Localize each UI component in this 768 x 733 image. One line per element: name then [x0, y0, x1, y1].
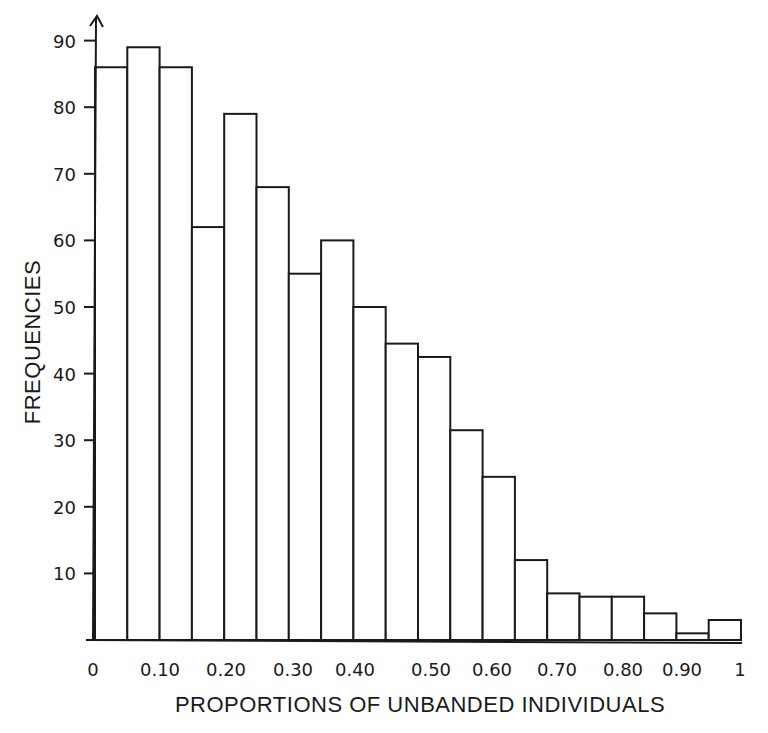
histogram-bar: [450, 430, 482, 640]
histogram-bar: [95, 67, 127, 640]
x-tick-label: 0.40: [335, 659, 375, 680]
x-tick-label: 0.60: [472, 659, 512, 680]
histogram-bar: [580, 597, 612, 640]
histogram-bar: [515, 560, 547, 640]
histogram-bar: [224, 114, 256, 640]
x-axis-title: PROPORTIONS OF UNBANDED INDIVIDUALS: [175, 692, 665, 717]
histogram-bar: [483, 477, 515, 640]
histogram-bar: [192, 227, 224, 640]
x-tick-label: 1: [734, 659, 745, 680]
y-tick-label: 30: [53, 430, 76, 451]
y-tick-label: 20: [53, 497, 76, 518]
histogram-bar: [127, 47, 159, 640]
y-tick-label: 50: [53, 297, 76, 318]
histogram-bar: [676, 633, 708, 640]
histogram-bar: [547, 593, 579, 640]
y-tick-label: 70: [53, 164, 76, 185]
histogram-bar: [289, 274, 321, 640]
histogram-bar: [709, 620, 741, 640]
histogram-bar: [644, 613, 676, 640]
y-tick-label: 10: [53, 563, 76, 584]
y-axis-ticks: 102030405060708090: [53, 31, 96, 585]
x-axis-ticks: 00.100.200.300.400.500.600.700.800.901: [87, 659, 745, 680]
x-tick-label: 0.20: [206, 659, 246, 680]
histogram-bar: [612, 597, 644, 640]
histogram-bar: [353, 307, 385, 640]
histogram-bar: [257, 187, 289, 640]
x-tick-label: 0.80: [603, 659, 643, 680]
y-tick-label: 60: [53, 230, 76, 251]
y-tick-label: 90: [53, 31, 76, 52]
x-tick-label: 0.70: [537, 659, 577, 680]
histogram-bars: [95, 47, 741, 640]
histogram-bar: [321, 240, 353, 640]
y-tick-label: 80: [53, 97, 76, 118]
x-tick-label: 0.50: [411, 659, 451, 680]
histogram-bar: [418, 357, 450, 640]
x-tick-label: 0.30: [273, 659, 313, 680]
x-tick-label: 0.10: [140, 659, 180, 680]
y-tick-label: 40: [53, 364, 76, 385]
histogram-bar: [386, 344, 418, 640]
y-axis-title: FREQUENCIES: [20, 260, 45, 424]
x-tick-label: 0.90: [662, 659, 702, 680]
histogram-bar: [160, 67, 192, 640]
x-tick-label: 0: [87, 659, 98, 680]
histogram-chart: 102030405060708090 00.100.200.300.400.50…: [0, 0, 768, 733]
